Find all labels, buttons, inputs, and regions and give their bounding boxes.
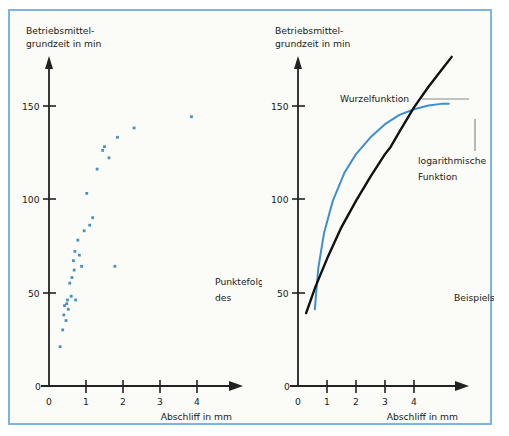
logarithmische-label-line1: logarithmische — [418, 155, 487, 166]
scatter-point — [72, 259, 75, 262]
scatter-point — [66, 299, 69, 302]
scatter-point — [70, 295, 73, 298]
scatter-point — [80, 265, 83, 268]
figure-frame: Betriebsmittel- grundzeit in min 150 100… — [8, 9, 492, 425]
right-ytick-label-50: 50 — [277, 288, 289, 299]
left-xtick-label-2: 2 — [120, 396, 126, 407]
right-xtick-label-0: 0 — [295, 396, 301, 407]
right-xtick-label-1: 1 — [324, 396, 330, 407]
right-xtick-label-4: 4 — [411, 396, 417, 407]
scatter-point — [73, 269, 76, 272]
scatter-point — [65, 302, 68, 305]
wurzelfunktion-label: Wurzelfunktion — [340, 93, 409, 104]
scatter-point — [88, 224, 91, 227]
right-x-axis-arrow — [455, 381, 469, 391]
left-xlabel: Abschliff in mm — [161, 411, 232, 422]
left-x-axis-arrow — [229, 381, 243, 391]
scatter-point — [91, 216, 94, 219]
right-xtick-label-2: 2 — [353, 396, 359, 407]
right-y-axis-arrow — [294, 56, 302, 69]
left-xtick-label-4: 4 — [194, 396, 200, 407]
right-chart-panel: Betriebsmittel- grundzeit in min 150 100… — [262, 11, 494, 427]
beispiels-label: Beispiels — [454, 292, 494, 303]
scatter-point — [133, 127, 136, 130]
scatter-point — [65, 319, 68, 322]
scatter-point — [96, 168, 99, 171]
right-ylabel-line2: grundzeit in min — [275, 38, 350, 49]
left-xtick-label-0: 0 — [46, 396, 52, 407]
scatter-point — [190, 115, 193, 118]
right-ytick-label-150: 150 — [271, 101, 289, 112]
scatter-point — [108, 156, 111, 159]
left-ytick-label-150: 150 — [22, 101, 40, 112]
scatter-point — [62, 314, 65, 317]
logarithmische-label-line2: Funktion — [418, 171, 458, 182]
scatter-point — [85, 192, 88, 195]
left-ytick-label-50: 50 — [28, 288, 40, 299]
scatter-point — [68, 282, 71, 285]
scatter-point — [116, 136, 119, 139]
left-y-axis-arrow — [45, 56, 53, 69]
left-scatter-points — [59, 115, 193, 348]
logarithmic-function-curve — [315, 104, 449, 310]
scatter-point — [61, 329, 64, 332]
scatter-point — [67, 308, 70, 311]
scatter-point — [83, 229, 86, 232]
right-xtick-label-3: 3 — [382, 396, 388, 407]
left-ylabel-line2: grundzeit in min — [26, 38, 101, 49]
left-xtick-label-3: 3 — [157, 396, 163, 407]
right-ylabel-line1: Betriebsmittel- — [275, 25, 343, 36]
scatter-point — [59, 345, 62, 348]
left-ytick-label-0: 0 — [35, 381, 41, 392]
right-line-chart: Betriebsmittel- grundzeit in min 150 100… — [262, 11, 494, 427]
left-ytick-label-100: 100 — [22, 194, 40, 205]
left-xtick-label-1: 1 — [83, 396, 89, 407]
scatter-point — [101, 149, 104, 152]
scatter-point — [78, 254, 81, 257]
scatter-point — [71, 276, 74, 279]
left-chart-panel: Betriebsmittel- grundzeit in min 150 100… — [10, 11, 262, 427]
left-ylabel-line1: Betriebsmittel- — [26, 25, 94, 36]
scatter-point — [113, 265, 116, 268]
scatter-point — [76, 239, 79, 242]
right-ytick-label-100: 100 — [271, 194, 289, 205]
scatter-point — [74, 299, 77, 302]
figure-root: Betriebsmittel- grundzeit in min 150 100… — [0, 0, 509, 436]
left-scatter-chart: Betriebsmittel- grundzeit in min 150 100… — [10, 11, 262, 427]
scatter-point — [74, 250, 77, 253]
punktefolge-label-line1: Punktefolge — [215, 276, 262, 287]
scatter-point — [103, 145, 106, 148]
punktefolge-label-line2: des — [215, 292, 231, 303]
right-ytick-label-0: 0 — [284, 381, 290, 392]
right-xlabel: Abschliff in mm — [387, 411, 458, 422]
